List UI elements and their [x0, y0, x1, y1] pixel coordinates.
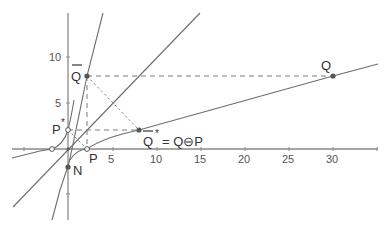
y-tick-label-10: 10 [49, 51, 61, 63]
svg-text:P: P [52, 122, 61, 137]
hyperbola-branch-right [70, 64, 378, 160]
y-tick-label-5: 5 [55, 97, 61, 109]
label-q-bar-star: Q * = Q⊖P [143, 128, 203, 149]
point-q-bar [84, 73, 89, 78]
x-tick-label-5: 5 [108, 153, 114, 165]
hyperbola-branch-steep [52, 13, 103, 220]
point-p-star [66, 128, 71, 133]
label-q-bar: Q [71, 65, 82, 84]
x-tick-label-15: 15 [194, 153, 206, 165]
diagram-canvas: 5 10 15 20 25 30 5 10 Q Q P * Q * = Q⊖P … [0, 0, 388, 227]
point-n [65, 164, 70, 169]
svg-text:*: * [61, 117, 65, 128]
x-tick-label-30: 30 [326, 153, 338, 165]
point-q [330, 73, 335, 78]
x-tick-label-25: 25 [282, 153, 294, 165]
svg-text:Q: Q [143, 134, 153, 149]
label-p: P [89, 151, 98, 166]
label-p-star: P * [52, 117, 65, 137]
point-q-bar-star [136, 127, 141, 132]
label-q: Q [321, 58, 331, 73]
svg-text:*: * [155, 128, 159, 139]
svg-text:= Q⊖P: = Q⊖P [162, 134, 203, 149]
asymptote-line [13, 13, 200, 207]
svg-text:Q: Q [71, 69, 81, 84]
point-x-intercept [50, 147, 55, 152]
origin-point [67, 148, 70, 151]
x-tick-label-20: 20 [238, 153, 250, 165]
label-n: N [73, 163, 82, 178]
x-tick-label-10: 10 [150, 153, 162, 165]
